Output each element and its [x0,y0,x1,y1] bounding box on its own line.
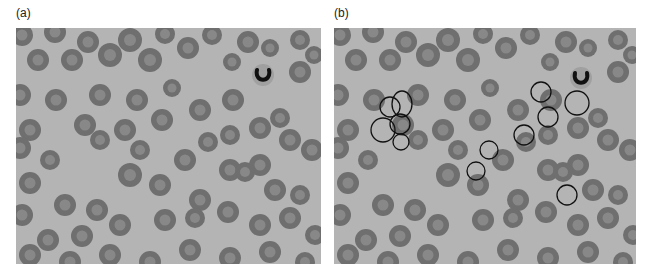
red-blood-cell [222,89,244,111]
red-blood-cell [163,79,181,97]
red-blood-cell [492,149,514,171]
red-blood-cell [448,140,468,160]
red-blood-cell [404,199,426,221]
red-blood-cell [118,28,142,52]
red-blood-cell [553,162,573,182]
red-blood-cell [37,229,59,251]
red-blood-cell [497,239,519,261]
red-blood-cell [109,214,131,236]
red-blood-cell [74,114,96,136]
red-blood-cell [290,185,310,205]
red-blood-cell [130,140,150,160]
red-blood-cell [372,194,394,216]
red-blood-cell [45,89,67,111]
red-blood-cell [389,225,411,247]
red-blood-cell [138,48,162,72]
red-blood-cell [355,229,377,251]
red-blood-cell [220,125,240,145]
red-blood-cell [189,99,211,121]
red-blood-cell [567,117,589,139]
red-blood-cell [86,199,108,221]
red-blood-cell [235,162,255,182]
red-blood-cell [198,132,218,152]
red-blood-cell [516,132,536,152]
panel-a-blood-smear [16,28,321,264]
red-blood-cell [27,49,49,71]
red-blood-cell [436,163,460,187]
red-blood-cell [40,150,60,170]
red-blood-cell [469,109,491,131]
red-blood-cell [608,185,628,205]
panel-b-label: (b) [334,6,349,20]
red-blood-cell [416,43,440,67]
red-blood-cell [223,53,241,71]
red-blood-cell [577,241,599,263]
red-blood-cell [270,108,290,128]
red-blood-cell [555,31,577,53]
red-blood-cell [151,109,173,131]
blood-smear-image-b [334,28,636,264]
red-blood-cell [279,207,301,229]
panel-b-blood-smear [334,28,636,264]
red-blood-cell [126,89,148,111]
red-blood-cell [154,209,176,231]
red-blood-cell [472,209,494,231]
red-blood-cell [149,174,171,196]
red-blood-cell [345,49,367,71]
red-blood-cell [582,179,604,201]
red-blood-cell [363,89,385,111]
red-blood-cell [179,239,201,261]
blood-smear-image-a [16,28,321,264]
red-blood-cell [503,208,523,228]
red-blood-cell [237,31,259,53]
red-blood-cell [19,172,41,194]
neutrophil [570,67,592,89]
red-blood-cell [507,189,529,211]
red-blood-cell [98,43,122,67]
red-blood-cell [395,31,417,53]
red-blood-cell [588,108,608,128]
red-blood-cell [177,37,199,59]
red-blood-cell [597,129,619,151]
red-blood-cell [118,163,142,187]
red-blood-cell [607,61,629,83]
red-blood-cell [259,241,281,263]
red-blood-cell [71,225,93,247]
panel-a-label: (a) [16,6,31,20]
red-blood-cell [608,30,628,50]
red-blood-cell [358,150,378,170]
red-blood-cell [114,119,136,141]
red-blood-cell [507,99,529,121]
red-blood-cell [481,79,499,97]
red-blood-cell [61,49,83,71]
red-blood-cell [290,30,310,50]
red-blood-cell [444,89,466,111]
red-blood-cell [189,189,211,211]
red-blood-cell [279,129,301,151]
red-blood-cell [456,48,480,72]
red-blood-cell [427,214,449,236]
red-blood-cell [541,53,559,71]
red-blood-cell [436,28,460,52]
red-blood-cell [535,201,557,223]
red-blood-cell [337,172,359,194]
red-blood-cell [408,130,428,150]
red-blood-cell [538,125,558,145]
red-blood-cell [495,37,517,59]
red-blood-cell [261,39,279,57]
red-blood-cell [54,194,76,216]
neutrophil [252,64,274,86]
red-blood-cell [249,117,271,139]
red-blood-cell [77,31,99,53]
red-blood-cell [567,214,589,236]
red-blood-cell [174,149,196,171]
red-blood-cell [579,39,597,57]
red-blood-cell [407,84,429,106]
red-blood-cell [432,119,454,141]
red-blood-cell [89,84,111,106]
red-blood-cell [264,179,286,201]
red-blood-cell [289,61,311,83]
red-blood-cell [249,214,271,236]
red-blood-cell [90,130,110,150]
red-blood-cell [185,208,205,228]
